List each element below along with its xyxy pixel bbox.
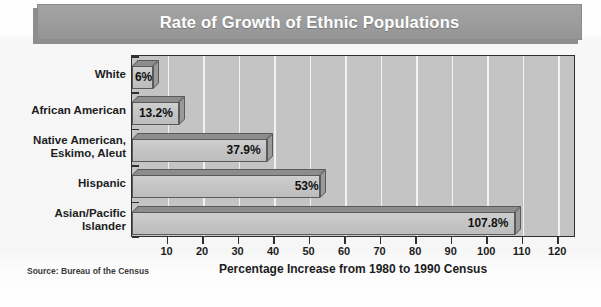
- x-axis-title: Percentage Increase from 1980 to 1990 Ce…: [131, 262, 575, 276]
- x-axis-tick-label: 70: [374, 245, 386, 257]
- x-axis-tick-label: 40: [267, 245, 279, 257]
- bar: 107.8%: [132, 206, 522, 236]
- source-note: Source: Bureau of the Census: [27, 266, 149, 276]
- x-axis-tick-label: 10: [160, 245, 172, 257]
- category-label: African American: [8, 104, 126, 117]
- bar-front-face: [132, 175, 320, 198]
- bar-value-label: 13.2%: [139, 106, 173, 120]
- bar: 6%: [132, 60, 160, 90]
- plot-area: 6%13.2%37.9%53%107.8%: [131, 55, 575, 237]
- y-axis-tick: [132, 92, 139, 94]
- x-axis-tick: [380, 237, 382, 244]
- x-axis-tick: [273, 237, 275, 244]
- bar-value-label: 37.9%: [227, 143, 261, 157]
- y-axis-tick: [132, 202, 139, 204]
- x-axis-tick-label: 20: [196, 245, 208, 257]
- bar-value-label: 107.8%: [468, 216, 509, 230]
- x-axis-tick-label: 90: [445, 245, 457, 257]
- x-axis-tick: [557, 237, 559, 244]
- bar-value-label: 6%: [135, 70, 152, 84]
- category-label-line: Hispanic: [8, 177, 126, 190]
- category-label-line: White: [8, 68, 126, 81]
- category-label-line: Eskimo, Aleut: [8, 147, 126, 160]
- y-axis-tick: [132, 56, 139, 58]
- bar-value-label: 53%: [295, 179, 319, 193]
- x-axis-tick-label: 100: [477, 245, 495, 257]
- title-banner: Rate of Growth of Ethnic Populations: [37, 4, 582, 40]
- page-title: Rate of Growth of Ethnic Populations: [160, 13, 460, 32]
- bar: 13.2%: [132, 96, 186, 126]
- category-label: Hispanic: [8, 177, 126, 190]
- category-label-line: Asian/Pacific: [8, 207, 126, 220]
- chart-page: Rate of Growth of Ethnic Populations 6%1…: [0, 0, 601, 307]
- x-axis-tick-label: 80: [409, 245, 421, 257]
- bar-side-face: [179, 96, 185, 125]
- category-label-line: Islander: [8, 220, 126, 233]
- bar-side-face: [320, 169, 326, 198]
- bar: 37.9%: [132, 133, 274, 163]
- bar-side-face: [153, 60, 159, 89]
- category-label-line: Native American,: [8, 134, 126, 147]
- category-label: Native American,Eskimo, Aleut: [8, 134, 126, 160]
- x-axis-tick-label: 50: [302, 245, 314, 257]
- x-axis-tick-label: 120: [548, 245, 566, 257]
- y-axis-tick: [132, 165, 139, 167]
- x-axis-tick-label: 30: [231, 245, 243, 257]
- x-axis: 102030405060708090100110120: [131, 237, 575, 263]
- x-axis-tick: [451, 237, 453, 244]
- bar: 53%: [132, 169, 327, 199]
- category-label: White: [8, 68, 126, 81]
- x-axis-tick: [522, 237, 524, 244]
- x-axis-tick: [309, 237, 311, 244]
- y-axis-tick: [132, 129, 139, 131]
- category-label-line: African American: [8, 104, 126, 117]
- x-axis-tick: [344, 237, 346, 244]
- category-axis-labels: WhiteAfrican AmericanNative American,Esk…: [0, 55, 126, 237]
- gridline: [558, 56, 560, 236]
- gridline: [523, 56, 525, 236]
- bar-front-face: [132, 212, 515, 235]
- x-axis-tick: [167, 237, 169, 244]
- x-axis-tick: [238, 237, 240, 244]
- x-axis-tick: [486, 237, 488, 244]
- x-axis-tick-label: 110: [513, 245, 531, 257]
- x-axis-tick: [415, 237, 417, 244]
- category-label: Asian/PacificIslander: [8, 207, 126, 233]
- x-axis-tick-label: 60: [338, 245, 350, 257]
- x-axis-tick: [202, 237, 204, 244]
- bar-side-face: [515, 206, 521, 235]
- bar-side-face: [267, 133, 273, 162]
